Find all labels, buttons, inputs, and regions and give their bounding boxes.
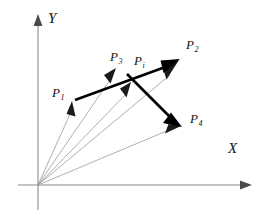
bold-vector-p1-p2 [75, 66, 168, 100]
ray-arrowhead-p1 [67, 101, 76, 117]
point-label-p1: P1 [52, 86, 64, 99]
axis-group [18, 14, 252, 210]
x-axis-arrowhead [240, 181, 252, 190]
vector-canvas [0, 0, 271, 217]
y-axis-label: Y [48, 11, 56, 26]
ray-arrowhead-p3 [104, 68, 116, 84]
x-axis-label: X [228, 141, 237, 156]
vector-diagram-figure: P1 P3 Pi P2 P4 Y X [0, 0, 271, 217]
point-label-pi: Pi [134, 54, 144, 67]
point-label-p3: P3 [110, 50, 122, 63]
point-label-p4: P4 [190, 112, 202, 125]
position-rays-group [38, 60, 181, 185]
ray-to-p3 [38, 80, 110, 185]
ray-to-p1 [38, 112, 71, 185]
bold-vectors-group [75, 59, 182, 127]
y-axis-arrowhead [34, 14, 43, 26]
point-label-p2: P2 [186, 38, 198, 51]
ray-to-p4 [38, 130, 169, 185]
ray-to-pi [38, 94, 126, 185]
